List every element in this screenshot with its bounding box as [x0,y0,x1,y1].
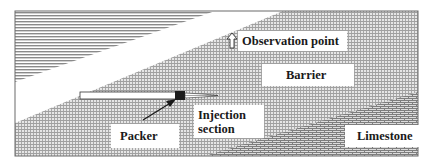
injection-label-line2: section [198,122,246,136]
borehole-pipe [80,92,176,99]
observation-point-label: Observation point [238,31,347,51]
limestone-label: Limestone [345,125,427,147]
injection-label-line1: Injection [198,108,246,122]
packer-block [175,91,185,100]
packer-label: Packer [111,124,179,148]
barrier-label: Barrier [262,64,354,86]
injection-section-label: Injection section [194,105,264,138]
